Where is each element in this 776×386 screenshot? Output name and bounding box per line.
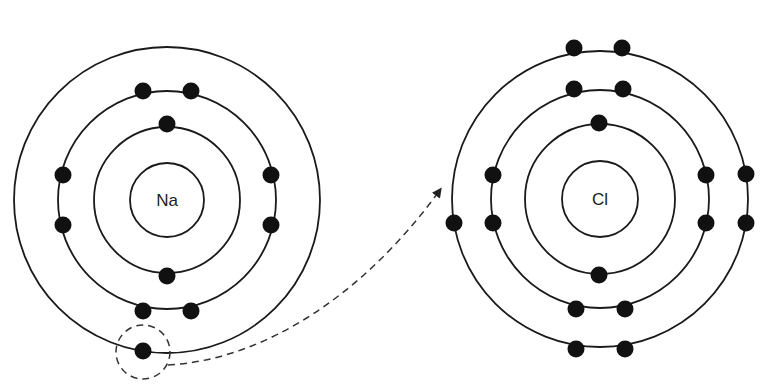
electron — [698, 167, 715, 184]
electron — [617, 301, 634, 318]
ionic-bond-diagram: Na Cl — [0, 0, 776, 386]
electron — [566, 81, 583, 98]
electron — [568, 301, 585, 318]
electron — [591, 115, 608, 132]
electron — [135, 343, 152, 360]
electron — [159, 116, 176, 133]
electron — [159, 268, 176, 285]
electron — [55, 217, 72, 234]
electron — [263, 217, 280, 234]
electron — [566, 40, 583, 57]
electron — [135, 83, 152, 100]
electron-transfer-arrow — [168, 190, 440, 365]
electron — [738, 166, 755, 183]
electron — [614, 40, 631, 57]
electron — [135, 303, 152, 320]
electron — [738, 215, 755, 232]
electron — [55, 167, 72, 184]
electron — [485, 215, 502, 232]
electron — [568, 341, 585, 358]
electron — [485, 167, 502, 184]
electron — [446, 215, 463, 232]
electron — [183, 83, 200, 100]
electron — [591, 267, 608, 284]
electron — [615, 81, 632, 98]
electron — [617, 341, 634, 358]
chlorine-label: Cl — [592, 190, 608, 209]
electron — [698, 215, 715, 232]
electron — [263, 167, 280, 184]
sodium-label: Na — [156, 191, 178, 210]
electron — [183, 303, 200, 320]
